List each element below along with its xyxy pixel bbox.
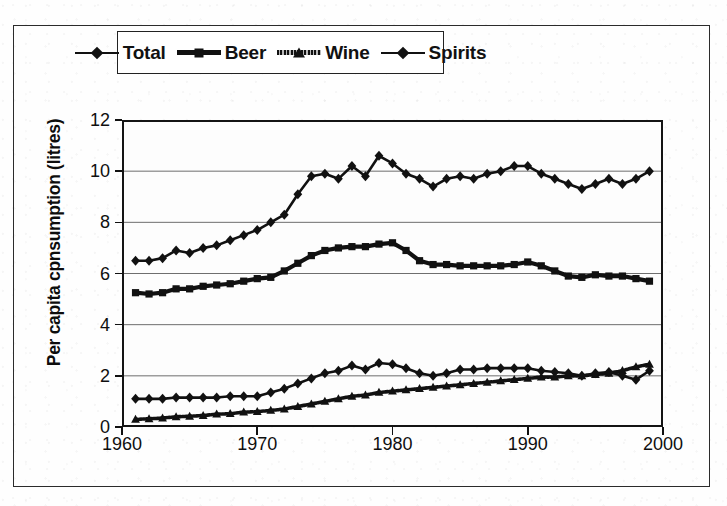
y-tick-label: 4 [80, 314, 110, 335]
legend-swatch-total [75, 46, 119, 60]
x-tick-mark [121, 427, 123, 435]
y-tick-mark [115, 222, 122, 224]
legend-item-spirits: Spirits [381, 43, 487, 62]
x-tick-label: 1990 [508, 434, 548, 455]
y-tick-label: 2 [80, 365, 110, 386]
diamond-marker-icon [90, 46, 103, 59]
legend-item-beer: Beer [177, 43, 266, 62]
y-tick-label: 10 [80, 161, 110, 182]
y-tick-label: 8 [80, 212, 110, 233]
x-tick-mark [392, 427, 394, 435]
legend-label-wine: Wine [325, 43, 369, 62]
legend-label-total: Total [123, 43, 166, 62]
y-tick-label: 6 [80, 263, 110, 284]
scanned-chart-page: Total Beer Wine Spirits Per capita cpnsu… [0, 0, 727, 506]
legend-swatch-wine [277, 46, 321, 60]
legend-label-beer: Beer [225, 43, 266, 62]
y-tick-mark [115, 170, 122, 172]
y-tick-mark [115, 119, 122, 121]
x-tick-mark [527, 427, 529, 435]
x-tick-label: 1980 [372, 434, 412, 455]
legend-item-wine: Wine [277, 43, 369, 62]
legend-swatch-spirits [381, 46, 425, 60]
chart-legend: Total Beer Wine Spirits [117, 31, 444, 74]
square-marker-icon [194, 48, 203, 57]
legend-item-total: Total [75, 43, 166, 62]
x-tick-label: 1960 [102, 434, 142, 455]
x-tick-label: 2000 [643, 434, 683, 455]
diamond-marker-icon [396, 46, 409, 59]
x-tick-mark [662, 427, 664, 435]
y-tick-mark [115, 324, 122, 326]
y-tick-label: 12 [80, 110, 110, 131]
x-tick-label: 1970 [237, 434, 277, 455]
y-tick-mark [115, 375, 122, 377]
y-tick-mark [115, 273, 122, 275]
x-tick-mark [256, 427, 258, 435]
legend-swatch-beer [177, 46, 221, 60]
triangle-marker-icon [293, 47, 305, 57]
plot-area [122, 120, 663, 427]
legend-label-spirits: Spirits [429, 43, 487, 62]
y-axis-title: Per capita cpnsumption (litres) [44, 93, 65, 393]
plot-border [122, 120, 663, 427]
